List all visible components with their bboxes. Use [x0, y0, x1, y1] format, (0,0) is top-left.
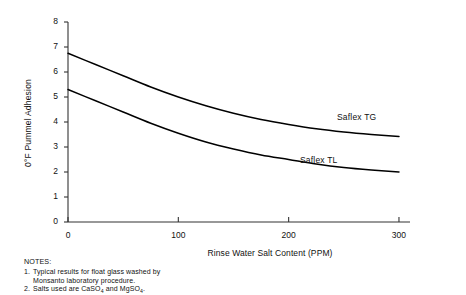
note-2-text-c: .: [143, 285, 145, 292]
x-tick-label: 300: [384, 231, 414, 240]
notes-title: NOTES:: [24, 258, 160, 267]
note-1-line-2: Monsanto laboratory procedure.: [24, 277, 160, 286]
note-2-subscript-1: 4: [101, 288, 104, 294]
series-line-saflex-tg: [68, 53, 399, 136]
y-tick-label: 3: [40, 142, 58, 151]
y-tick-label: 0: [40, 217, 58, 226]
note-1-number: 1.: [24, 268, 33, 277]
y-tick-label: 7: [40, 42, 58, 51]
y-axis-title: 0°F Pummel Adhesion: [23, 33, 33, 213]
note-2-text: Salts used are CaSO4 and MgSO4.: [33, 285, 160, 294]
x-tick-label: 100: [163, 231, 193, 240]
note-item-1: 1. Typical results for float glass washe…: [24, 268, 160, 277]
note-item-2: 2. Salts used are CaSO4 and MgSO4.: [24, 285, 160, 294]
y-tick-label: 6: [40, 67, 58, 76]
note-2-text-a: Salts used are CaSO: [33, 285, 101, 292]
x-axis-ticks: [68, 217, 399, 222]
y-tick-label: 8: [40, 17, 58, 26]
x-tick-label: 0: [53, 231, 83, 240]
series-label-saflex-tg: Saflex TG: [337, 112, 376, 122]
y-axis-ticks: [64, 22, 68, 222]
note-2-subscript-2: 4: [140, 288, 143, 294]
series-label-saflex-tl: Saflex TL: [300, 155, 338, 165]
y-tick-label: 4: [40, 117, 58, 126]
y-tick-label: 1: [40, 192, 58, 201]
y-tick-label: 2: [40, 167, 58, 176]
note-2-text-b: and MgSO: [104, 285, 140, 292]
chart-figure: 0°F Pummel Adhesion Rinse Water Salt Con…: [0, 0, 466, 295]
y-tick-label: 5: [40, 92, 58, 101]
note-2-number: 2.: [24, 285, 33, 294]
x-tick-label: 200: [274, 231, 304, 240]
series-line-saflex-tl: [68, 90, 399, 173]
x-axis-title: Rinse Water Salt Content (PPM): [120, 248, 420, 258]
note-1-line-1: Typical results for float glass washed b…: [33, 268, 160, 277]
notes-block: NOTES: 1. Typical results for float glas…: [24, 258, 160, 294]
